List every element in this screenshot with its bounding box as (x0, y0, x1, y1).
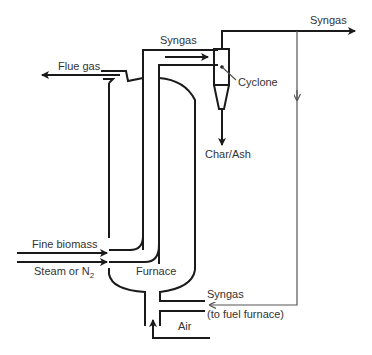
label-syngas-recycle: Syngas (207, 288, 244, 300)
riser-inner-wall (159, 65, 218, 264)
syngas-outlet-line (222, 31, 355, 49)
label-cyclone: Cyclone (238, 76, 278, 88)
riser-bend-inner (109, 245, 159, 262)
syngas-recycle-line (210, 31, 297, 305)
furnace-left-wall (103, 79, 113, 83)
label-syngas-top: Syngas (160, 34, 197, 46)
label-fine-biomass: Fine biomass (32, 238, 98, 250)
label-furnace: Furnace (136, 265, 176, 277)
label-to-fuel-furnace: (to fuel furnace) (207, 308, 284, 320)
label-steam: Steam or N2 (34, 265, 95, 280)
label-air: Air (178, 320, 192, 332)
furnace-dome-top (159, 78, 195, 270)
gasifier-diagram: Syngas Syngas Flue gas Cyclone Char/Ash … (0, 0, 372, 355)
label-char-ash: Char/Ash (205, 148, 251, 160)
riser-bend (109, 236, 143, 250)
cyclone-cone (214, 85, 229, 109)
label-flue-gas: Flue gas (58, 60, 101, 72)
label-syngas-outlet: Syngas (310, 14, 347, 26)
